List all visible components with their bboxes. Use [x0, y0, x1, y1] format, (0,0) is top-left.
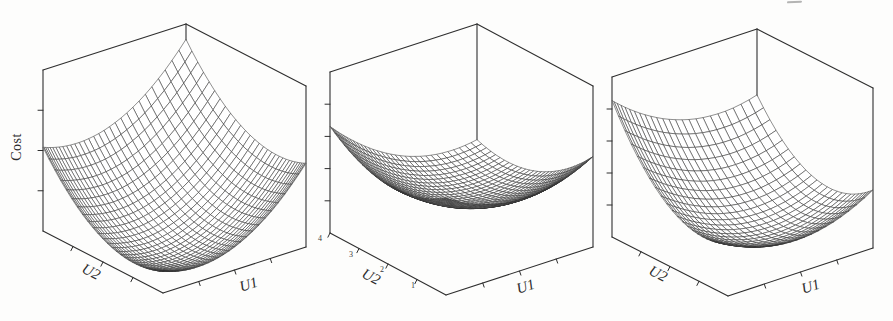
panel2-u2-tick-4: 4 [318, 234, 322, 243]
panel1-u2-axis-label: U2 [79, 260, 103, 283]
panel2-u2-tick-2: 2 [380, 265, 384, 274]
panel2-u2-tick-3: 3 [349, 250, 353, 259]
panel3-u1-axis-label: U1 [799, 276, 821, 297]
wireframe-surface-1 [43, 39, 306, 271]
panel2-u1-axis-label: U1 [514, 276, 536, 297]
figure-canvas: Cost U2 U1 U2 U1 U2 U1 1 2 3 4 [0, 0, 893, 321]
panel2-u2-tick-1: 1 [411, 281, 415, 290]
panel1-u1-axis-label: U1 [237, 274, 259, 295]
surface-plot-panel-1 [38, 24, 306, 293]
panel3-u2-axis-label: U2 [646, 262, 670, 285]
surface-plot-panel-2 [325, 24, 593, 295]
wireframe-surface-3 [612, 95, 873, 247]
surface-plot-panel-3 [607, 29, 873, 296]
cost-axis-label: Cost [9, 133, 24, 161]
wireframe-surface-2 [330, 126, 593, 208]
surface-plots-group [38, 24, 873, 296]
cost-surfaces-figure: Cost U2 U1 U2 U1 U2 U1 1 2 3 4 [0, 0, 893, 321]
